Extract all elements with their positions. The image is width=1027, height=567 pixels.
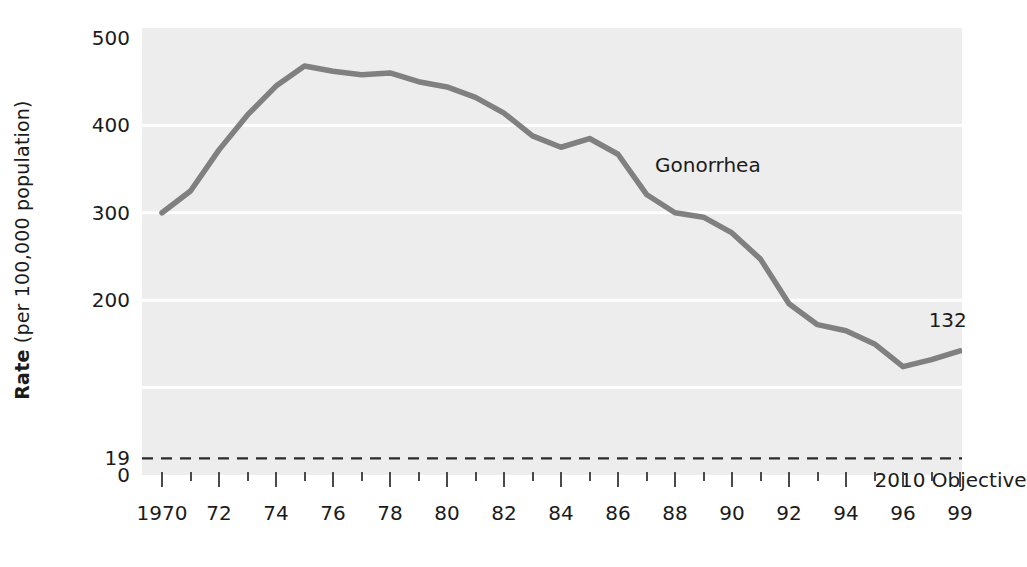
x-tick-1998 xyxy=(959,472,961,487)
x-tick-label-1980: 80 xyxy=(434,503,459,523)
x-tick-1990 xyxy=(731,472,733,487)
y-axis-title-bold: Rate xyxy=(11,349,33,399)
x-tick-1973 xyxy=(247,472,249,481)
y-tick-label-0: 0 xyxy=(66,465,130,485)
x-tick-1986 xyxy=(617,472,619,487)
x-tick-1975 xyxy=(304,472,306,481)
end-value-label: 132 xyxy=(929,310,967,330)
x-tick-label-1978: 78 xyxy=(377,503,402,523)
plot-area: Gonorrhea1322010 Objective xyxy=(142,28,962,475)
x-tick-1978 xyxy=(389,472,391,487)
plot-canvas xyxy=(142,28,962,475)
x-tick-label-1984: 84 xyxy=(548,503,573,523)
x-tick-1994 xyxy=(845,472,847,487)
y-tick-label-500: 500 xyxy=(66,28,130,48)
objective-label: 2010 Objective xyxy=(875,470,1027,490)
x-tick-1996 xyxy=(902,472,904,487)
x-tick-1981 xyxy=(475,472,477,481)
x-tick-1977 xyxy=(361,472,363,481)
x-tick-1997 xyxy=(931,472,933,481)
x-tick-label-1996: 96 xyxy=(890,503,915,523)
x-tick-label-1970: 1970 xyxy=(137,503,188,523)
x-tick-label-1986: 86 xyxy=(605,503,630,523)
x-tick-1989 xyxy=(703,472,705,481)
gonorrhea-line xyxy=(162,66,960,367)
x-tick-1992 xyxy=(788,472,790,487)
gridlines xyxy=(142,125,962,387)
x-tick-1995 xyxy=(874,472,876,481)
x-tick-1970 xyxy=(161,472,163,487)
x-tick-1971 xyxy=(190,472,192,481)
x-tick-label-1994: 94 xyxy=(833,503,858,523)
x-tick-1983 xyxy=(532,472,534,481)
y-axis-title: Rate (per 100,000 population) xyxy=(0,0,44,500)
series-label: Gonorrhea xyxy=(655,155,761,175)
x-tick-label-1988: 88 xyxy=(662,503,687,523)
x-tick-1991 xyxy=(760,472,762,481)
x-tick-1993 xyxy=(817,472,819,481)
y-tick-label-300: 300 xyxy=(66,203,130,223)
x-tick-label-1982: 82 xyxy=(491,503,516,523)
x-tick-label-1976: 76 xyxy=(320,503,345,523)
x-tick-label-1998: 99 xyxy=(947,503,972,523)
x-tick-1987 xyxy=(646,472,648,481)
x-tick-1976 xyxy=(332,472,334,487)
x-tick-label-1990: 90 xyxy=(719,503,744,523)
x-tick-1980 xyxy=(446,472,448,487)
x-tick-label-1972: 72 xyxy=(206,503,231,523)
y-axis-title-rest: (per 100,000 population) xyxy=(11,100,33,349)
y-tick-label-200: 200 xyxy=(66,290,130,310)
x-tick-1972 xyxy=(218,472,220,487)
x-tick-label-1992: 92 xyxy=(776,503,801,523)
x-tick-1988 xyxy=(674,472,676,487)
x-tick-1985 xyxy=(589,472,591,481)
x-tick-1979 xyxy=(418,472,420,481)
x-tick-1984 xyxy=(560,472,562,487)
x-tick-label-1974: 74 xyxy=(263,503,288,523)
x-tick-1982 xyxy=(503,472,505,487)
x-tick-1974 xyxy=(275,472,277,487)
y-tick-label-400: 400 xyxy=(66,115,130,135)
